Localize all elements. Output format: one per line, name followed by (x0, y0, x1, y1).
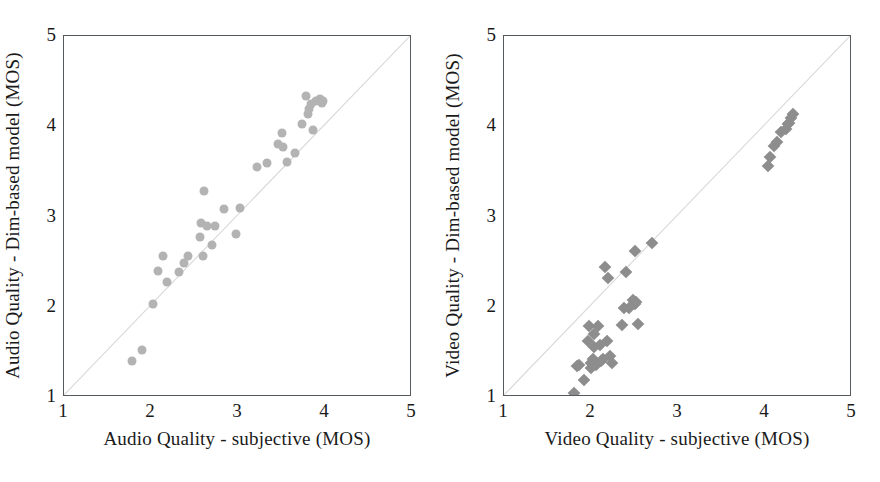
data-point (200, 187, 209, 196)
identity-reference-line-audio (64, 36, 410, 395)
x-tick-label: 2 (145, 399, 155, 423)
data-point (183, 252, 192, 261)
data-point (567, 387, 580, 395)
data-point (578, 373, 591, 386)
data-point (220, 205, 229, 214)
y-tick-label: 5 (487, 23, 497, 47)
data-point (210, 222, 219, 231)
data-point (232, 229, 241, 238)
y-tick-label: 3 (47, 204, 57, 228)
y-tick-label: 3 (487, 204, 497, 228)
plot-frame-audio (63, 35, 411, 396)
data-point (138, 346, 147, 355)
data-point (602, 271, 615, 284)
data-point (235, 204, 244, 213)
data-point (262, 159, 271, 168)
y-tick-label: 2 (487, 294, 497, 318)
data-point (291, 149, 300, 158)
x-tick-label: 3 (672, 399, 682, 423)
data-point (279, 143, 288, 152)
plot-area-audio (64, 36, 410, 395)
data-point (253, 162, 262, 171)
data-point (162, 278, 171, 287)
data-point (282, 158, 291, 167)
y-tick-label: 5 (47, 23, 57, 47)
data-point (207, 241, 216, 250)
y-tick-label: 1 (487, 384, 497, 408)
data-point (277, 128, 286, 137)
plot-area-video (504, 36, 850, 395)
data-point (308, 125, 317, 134)
data-point (298, 119, 307, 128)
plot-frame-video (503, 35, 851, 396)
data-point (174, 267, 183, 276)
data-point (616, 318, 629, 331)
data-point (153, 266, 162, 275)
data-point (159, 252, 168, 261)
x-tick-label: 4 (759, 399, 769, 423)
x-axis-label-audio: Audio Quality - subjective (MOS) (63, 428, 411, 450)
x-tick-label: 1 (58, 399, 68, 423)
data-point (195, 233, 204, 242)
data-point (646, 236, 659, 249)
data-point (319, 96, 328, 105)
panel-video-quality: Video Quality - Dim-based model (MOS) 12… (440, 0, 880, 482)
data-point (619, 266, 632, 279)
x-tick-label: 5 (406, 399, 416, 423)
data-point (127, 356, 136, 365)
y-tick-label: 2 (47, 294, 57, 318)
x-tick-label: 2 (585, 399, 595, 423)
x-tick-label: 5 (846, 399, 856, 423)
x-tick-label: 4 (319, 399, 329, 423)
y-tick-label: 1 (47, 384, 57, 408)
figure-root: Audio Quality - Dim-based model (MOS) 12… (0, 0, 880, 482)
panel-audio-quality: Audio Quality - Dim-based model (MOS) 12… (0, 0, 440, 482)
data-point (148, 300, 157, 309)
y-tick-label: 4 (487, 113, 497, 137)
x-tick-label: 3 (232, 399, 242, 423)
identity-reference-line-video (504, 36, 850, 395)
data-point (628, 244, 641, 257)
y-tick-label: 4 (47, 113, 57, 137)
x-axis-label-video: Video Quality - subjective (MOS) (503, 428, 851, 450)
data-point (632, 318, 645, 331)
data-point (599, 261, 612, 274)
data-point (199, 252, 208, 261)
x-tick-label: 1 (498, 399, 508, 423)
